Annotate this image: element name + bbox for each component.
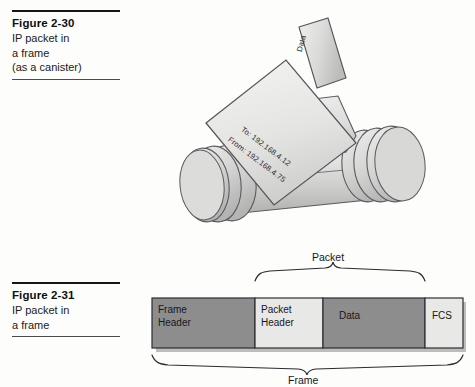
segment-label-line: FCS [432, 310, 452, 323]
segment-label-line: Packet [261, 304, 294, 317]
frame-brace-label: Frame [288, 374, 318, 386]
packet-brace-left [255, 263, 333, 282]
figure-caption-line: IP packet in [12, 31, 130, 46]
figure-page: Figure 2-30 IP packet in a frame (as a c… [0, 0, 475, 387]
segment-data-label: Data [339, 310, 360, 323]
frame-packet-diagram: Frame Header Packet Header Data FCS Pack… [140, 262, 475, 387]
segment-packet-header-label: Packet Header [261, 304, 294, 329]
data-tab [299, 18, 346, 88]
data-tab-shape [299, 18, 346, 88]
frame-brace [152, 355, 463, 375]
canister-svg [160, 0, 475, 250]
segment-frame-header-label: Frame Header [158, 304, 191, 329]
caption-text-block: Figure 2-30 IP packet in a frame (as a c… [12, 12, 130, 79]
packet-brace-label: Packet [312, 251, 344, 263]
segment-fcs-label: FCS [432, 310, 452, 323]
caption-rule-bottom [12, 336, 120, 337]
figure-number: Figure 2-31 [12, 288, 130, 303]
frame-brace-right [307, 355, 463, 375]
frame-brace-left [152, 355, 307, 375]
segment-data [323, 298, 425, 348]
figure-caption-line: IP packet in [12, 303, 130, 318]
figure-caption-line: a frame [12, 318, 130, 333]
figure-number: Figure 2-30 [12, 16, 130, 31]
segment-label-line: Header [261, 317, 294, 330]
segment-label-line: Data [339, 310, 360, 323]
segment-label-line: Frame [158, 304, 191, 317]
caption-rule-bottom [12, 79, 120, 80]
packet-brace-right [333, 263, 425, 282]
figure-caption-2-31: Figure 2-31 IP packet in a frame [12, 282, 130, 337]
figure-caption-line: (as a canister) [12, 60, 130, 75]
figure-caption-2-30: Figure 2-30 IP packet in a frame (as a c… [12, 10, 130, 80]
caption-text-block: Figure 2-31 IP packet in a frame [12, 284, 130, 336]
segment-label-line: Header [158, 317, 191, 330]
segment-fcs [425, 298, 463, 348]
figure-caption-line: a frame [12, 46, 130, 61]
canister-illustration: Data To: 192.168.4.12 From: 192.168.4.75 [160, 0, 475, 250]
packet-brace [255, 263, 425, 282]
